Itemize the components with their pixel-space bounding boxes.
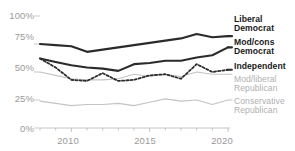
series-line-independent [40,59,228,81]
series-label-modliberal-republican-line2: Republican [234,84,278,93]
y-tick-label-25: 25% [0,94,34,104]
series-label-independent: Independent [234,62,286,71]
series-line-liberal-democrat [40,34,228,52]
series-line-conservative-republican [40,99,228,106]
series-line-mod-cons-democrat [40,47,228,71]
x-tick-label-2020: 2020 [211,136,233,146]
series-label-modcons-democrat-line2: Democrat [234,47,274,56]
y-tick-label-75: 75% [0,32,34,42]
series-lines-group [40,34,232,106]
series-line-mod-liberal-republican [40,72,228,80]
y-tick-label-0: 0% [0,124,34,134]
series-label-liberal-democrat-line2: Democrat [234,24,274,33]
y-tick-label-50: 50% [0,63,34,73]
x-tick-label-2010: 2010 [57,136,79,146]
series-label-conservative-republican-line2: Republican [234,106,278,115]
y-tick-label-100: 100% [0,11,34,21]
x-tick-label-2015: 2015 [134,136,156,146]
line-chart: 100% 75% 50% 25% 0% 2010 2015 2020 Liber… [0,0,295,151]
